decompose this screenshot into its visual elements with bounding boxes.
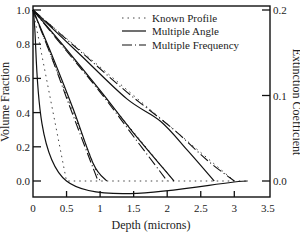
y-tick-label: 0.4 — [16, 107, 30, 119]
y-tick-label: 0.6 — [16, 72, 30, 84]
x-tick-label: 3.5 — [261, 202, 275, 214]
multiple-frequency-curve — [33, 10, 98, 181]
x-tick-label: 0.5 — [60, 202, 74, 214]
x-axis-title: Depth (microns) — [112, 218, 191, 232]
y2-tick-label: 0.0 — [273, 175, 287, 187]
y-tick-label: 1.0 — [16, 4, 30, 16]
legend-known-label: Known Profile — [152, 12, 217, 24]
x-tick-label: 0 — [30, 202, 36, 214]
y-tick-label: 0.2 — [16, 141, 30, 153]
legend-freq-label: Multiple Frequency — [152, 39, 240, 51]
legend: Known Profile Multiple Angle Multiple Fr… — [122, 12, 240, 51]
multiple-frequency-curve — [33, 10, 167, 181]
x-tick-label: 2 — [164, 202, 170, 214]
y-tick-label: 0.8 — [16, 38, 30, 50]
x-tick-label: 2.5 — [194, 202, 208, 214]
legend-angle-label: Multiple Angle — [152, 25, 219, 37]
y2-axis-title: Extinction Coefficient — [290, 49, 300, 156]
y2-tick-label: 0.1 — [273, 90, 287, 102]
chart: 00.511.522.533.50.00.20.40.60.81.00.00.1… — [0, 0, 300, 232]
curves — [33, 10, 248, 194]
x-tick-label: 3 — [232, 202, 238, 214]
y-tick-label: 0.0 — [16, 175, 30, 187]
y2-tick-label: 0.2 — [273, 4, 287, 16]
x-tick-label: 1 — [97, 202, 103, 214]
x-tick-label: 1.5 — [127, 202, 141, 214]
y-axis-title: Volume Fraction — [0, 62, 12, 142]
multiple-angle-curve — [33, 10, 107, 181]
